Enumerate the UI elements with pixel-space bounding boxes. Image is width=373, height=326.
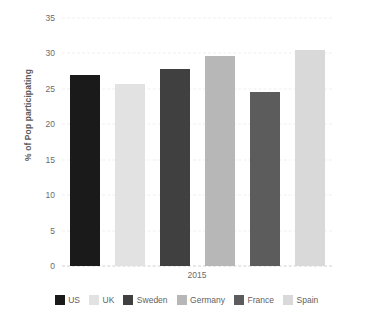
legend-swatch-icon: [123, 295, 133, 305]
legend-label: Sweden: [137, 296, 168, 305]
legend-item-uk[interactable]: UK: [89, 295, 114, 305]
legend-label: UK: [103, 296, 115, 305]
legend-label: Germany: [190, 296, 225, 305]
legend-swatch-icon: [234, 295, 244, 305]
y-axis-tick-label: 5: [50, 226, 55, 235]
y-axis-tick-label: 35: [46, 14, 55, 23]
bar-group: [62, 18, 332, 266]
bar-germany: [205, 56, 235, 266]
legend-item-sweden[interactable]: Sweden: [123, 295, 167, 305]
bar-sweden: [160, 69, 190, 266]
plot-area: 05101520253035: [62, 18, 332, 266]
bar-chart: % of Pop participating 05101520253035 20…: [0, 0, 373, 326]
legend-item-germany[interactable]: Germany: [177, 295, 225, 305]
y-axis-tick-label: 15: [46, 155, 55, 164]
chart-legend: USUKSwedenGermanyFranceSpain: [0, 295, 373, 305]
x-axis-label: 2015: [62, 270, 332, 280]
legend-swatch-icon: [283, 295, 293, 305]
bar-france: [250, 92, 280, 266]
y-axis-title: % of Pop participating: [23, 35, 33, 195]
y-axis-tick-label: 20: [46, 120, 55, 129]
y-axis-tick-label: 30: [46, 49, 55, 58]
legend-item-france[interactable]: France: [234, 295, 274, 305]
legend-swatch-icon: [177, 295, 187, 305]
y-axis-tick-label: 25: [46, 85, 55, 94]
legend-label: Spain: [297, 296, 319, 305]
bar-uk: [115, 84, 145, 266]
legend-label: US: [68, 296, 80, 305]
bar-us: [70, 75, 100, 266]
legend-item-spain[interactable]: Spain: [283, 295, 318, 305]
legend-label: France: [248, 296, 274, 305]
bar-spain: [295, 50, 325, 266]
legend-swatch-icon: [89, 295, 99, 305]
y-axis-tick-label: 10: [46, 191, 55, 200]
y-axis-tick-label: 0: [50, 262, 55, 271]
legend-swatch-icon: [55, 295, 65, 305]
legend-item-us[interactable]: US: [55, 295, 80, 305]
